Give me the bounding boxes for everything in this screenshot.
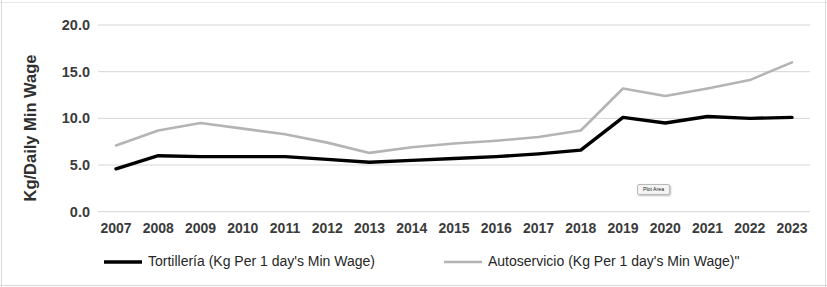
x-tick-label: 2011 — [270, 220, 301, 236]
x-tick-label: 2010 — [227, 220, 258, 236]
x-tick-label: 2012 — [312, 220, 343, 236]
legend-item[interactable]: Tortillería (Kg Per 1 day's Min Wage) — [104, 253, 375, 269]
x-tick-label: 2017 — [523, 220, 554, 236]
y-tick-label: 5.0 — [70, 157, 90, 173]
legend: Tortillería (Kg Per 1 day's Min Wage)Aut… — [104, 253, 739, 269]
chart-figure: 0.05.010.015.020.0 200720082009201020112… — [0, 0, 827, 287]
x-tick-label: 2021 — [692, 220, 723, 236]
x-tick-label: 2023 — [776, 220, 807, 236]
plot-area[interactable]: 0.05.010.015.020.0 200720082009201020112… — [0, 0, 827, 287]
x-tick-label: 2007 — [100, 220, 131, 236]
y-tick-label: 15.0 — [62, 64, 90, 80]
y-tick-label: 0.0 — [70, 204, 90, 220]
y-tick-label: 10.0 — [62, 110, 90, 126]
y-axis-title-text: Kg/Daily Min Wage — [21, 55, 39, 202]
legend-label: Tortillería (Kg Per 1 day's Min Wage) — [148, 253, 375, 269]
x-tick-label: 2016 — [481, 220, 512, 236]
series-lines — [116, 62, 792, 168]
line-chart-svg[interactable]: 0.05.010.015.020.0 200720082009201020112… — [0, 0, 827, 287]
x-tick-label: 2022 — [734, 220, 765, 236]
legend-label: Autoservicio (Kg Per 1 day's Min Wage)" — [488, 253, 739, 269]
x-tick-label: 2013 — [354, 220, 385, 236]
x-tick-label: 2019 — [607, 220, 638, 236]
plot-area-tooltip: Plot Area — [637, 184, 670, 195]
y-axis-title-group: Kg/Daily Min Wage — [21, 55, 39, 202]
x-axis-ticks: 2007200820092010201120122013201420152016… — [100, 220, 807, 236]
x-tick-label: 2020 — [650, 220, 681, 236]
legend-item[interactable]: Autoservicio (Kg Per 1 day's Min Wage)" — [444, 253, 739, 269]
x-tick-label: 2018 — [565, 220, 596, 236]
series-line — [116, 62, 792, 153]
y-axis-ticks: 0.05.010.015.020.0 — [62, 17, 90, 220]
x-tick-label: 2015 — [438, 220, 469, 236]
x-tick-label: 2014 — [396, 220, 427, 236]
y-tick-label: 20.0 — [62, 17, 90, 33]
x-tick-label: 2008 — [143, 220, 174, 236]
x-tick-label: 2009 — [185, 220, 216, 236]
